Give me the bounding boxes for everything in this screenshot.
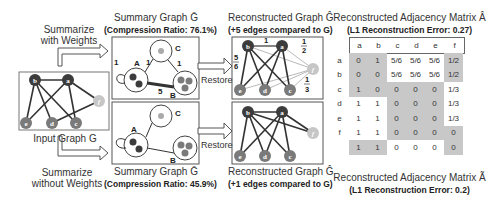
svg-text:1: 1 bbox=[177, 59, 182, 68]
svg-text:5: 5 bbox=[158, 87, 163, 96]
top-matrix-title: Reconstructed Adjacency Matrix Â bbox=[328, 12, 491, 23]
svg-text:a: a bbox=[280, 43, 284, 51]
svg-text:b: b bbox=[33, 77, 37, 85]
top-compression-ratio: (Compression Ratio: 76.1%) bbox=[104, 25, 208, 35]
svg-text:3: 3 bbox=[305, 85, 309, 94]
svg-text:a: a bbox=[280, 109, 284, 117]
svg-text:A: A bbox=[131, 125, 137, 134]
top-recon-title: Reconstructed Graph Ĝ bbox=[228, 12, 328, 23]
svg-text:2: 2 bbox=[302, 46, 306, 55]
matrix-row-b: b 0 0 5/6 5/6 5/6 1/2 bbox=[330, 68, 463, 83]
svg-text:1: 1 bbox=[114, 58, 119, 67]
top-restore-label: Restore bbox=[201, 75, 233, 85]
matrix-row-e: e 1 1 0 0 0 1/3 bbox=[330, 111, 463, 126]
matrix-row-c: c 1 0 0 0 0 1/3 bbox=[330, 82, 463, 97]
svg-text:a: a bbox=[66, 77, 70, 85]
svg-text:6: 6 bbox=[234, 62, 238, 71]
matrix-row-d: d 1 1 0 0 0 1/3 bbox=[330, 97, 463, 112]
bottom-matrix-title: Reconstructed Adjacency Matrix Ã bbox=[328, 172, 491, 183]
bottom-restore-label: Restore bbox=[201, 140, 233, 150]
svg-text:1: 1 bbox=[305, 75, 309, 84]
svg-text:B: B bbox=[170, 156, 176, 165]
svg-text:d: d bbox=[50, 120, 54, 128]
matrix-body: a 0 1 5/6 5/6 5/6 1/2 b 0 0 5/6 5/6 5/6 … bbox=[330, 53, 463, 155]
matrix-row-extra: 1 1 0 0 0 0 bbox=[330, 140, 463, 155]
svg-text:b: b bbox=[246, 43, 250, 51]
svg-text:e: e bbox=[24, 120, 27, 128]
svg-text:e: e bbox=[238, 153, 241, 161]
svg-text:5: 5 bbox=[234, 53, 238, 62]
svg-text:d: d bbox=[263, 87, 267, 95]
bottom-summary-title: Summary Graph Ḡ bbox=[108, 166, 204, 177]
top-summary-title: Summary Graph Ḡ bbox=[108, 12, 204, 23]
adjacency-matrix: a b c d e f a 0 1 5/6 5/6 5/6 1/2 b 0 0 … bbox=[330, 37, 490, 171]
matrix-row-a: a 0 1 5/6 5/6 5/6 1/2 bbox=[330, 53, 463, 68]
svg-text:c: c bbox=[288, 153, 291, 161]
svg-text:c: c bbox=[288, 87, 291, 95]
svg-text:1: 1 bbox=[302, 37, 306, 46]
svg-text:1: 1 bbox=[264, 36, 268, 45]
input-graph-label: Input Graph G bbox=[20, 133, 110, 144]
summarize-without-weights-label: Summarize without Weights bbox=[22, 167, 112, 189]
bottom-matrix-subtitle: (L1 Reconstruction Error: 0.2) bbox=[328, 185, 491, 195]
svg-text:C: C bbox=[175, 44, 181, 53]
summarize-with-weights-label: Summarize with Weights bbox=[30, 24, 108, 46]
svg-text:B: B bbox=[170, 91, 176, 100]
svg-text:e: e bbox=[238, 87, 241, 95]
top-matrix-subtitle: (L1 Reconstruction Error: 0.27) bbox=[328, 25, 491, 35]
svg-text:c: c bbox=[74, 120, 77, 128]
matrix-header-row: a b c d e f bbox=[349, 37, 465, 54]
svg-text:A: A bbox=[134, 59, 140, 68]
bottom-recon-subtitle: (+1 edges compared to G) bbox=[228, 179, 328, 189]
svg-text:1: 1 bbox=[146, 58, 151, 67]
svg-text:d: d bbox=[263, 153, 267, 161]
bottom-recon-title: Reconstructed Graph Ĝ bbox=[228, 166, 328, 177]
svg-text:b: b bbox=[246, 109, 250, 117]
matrix-row-f: f 1 1 0 0 0 0 bbox=[330, 126, 463, 141]
svg-text:C: C bbox=[175, 109, 181, 118]
top-recon-subtitle: (+5 edges compared to G) bbox=[228, 25, 328, 35]
bottom-compression-ratio: (Compression Ratio: 45.9%) bbox=[104, 179, 208, 189]
